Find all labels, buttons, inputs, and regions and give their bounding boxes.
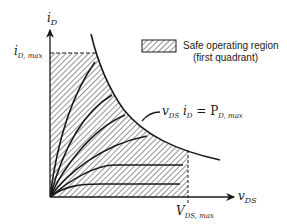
legend-hatch-swatch	[142, 40, 176, 52]
vds-max-label: VDS, max	[176, 204, 214, 220]
safe-operating-area-diagram: iD vDS iD, max VDS, max vDS iD = PD, max…	[0, 0, 287, 224]
safe-operating-region	[50, 53, 188, 197]
legend: Safe operating region (first quadrant)	[142, 40, 279, 63]
y-axis-label: iD	[47, 11, 58, 27]
legend-line-1: Safe operating region	[183, 40, 279, 51]
max-power-label: vDS iD = PD, max	[162, 104, 243, 120]
id-max-label: iD, max	[14, 44, 42, 60]
legend-line-2: (first quadrant)	[193, 52, 258, 63]
power-label-pointer	[142, 112, 160, 121]
x-axis-label: vDS	[238, 189, 257, 205]
